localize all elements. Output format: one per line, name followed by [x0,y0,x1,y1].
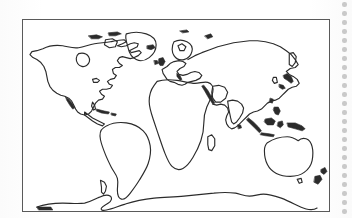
landmass-japan [283,73,293,83]
binding-hole-dot [342,92,347,97]
binding-hole-strip [341,0,350,218]
binding-hole-dot [342,173,347,178]
binding-hole-dot [342,110,347,115]
map-frame-border [22,19,330,212]
binding-hole-dot [342,128,347,133]
binding-hole-dot [342,164,347,169]
binding-hole-dot [342,65,347,70]
antarctic-peninsula [100,180,106,194]
landmass-ireland [154,61,158,65]
landmass-tasmania [297,178,302,183]
world-map-graphic [23,20,329,211]
binding-hole-dot [342,182,347,187]
binding-hole-dot [342,209,347,214]
landmass-scandinavia [172,40,192,60]
landmass-ellesmere [108,32,121,36]
binding-hole-dot [342,200,347,205]
landmass-new-zealand-north [321,167,327,174]
page-canvas: World Outline Map [0,0,352,218]
landmass-central-america [85,112,105,126]
page-title: World Outline Map [0,0,1,1]
binding-hole-dot [342,2,347,7]
landmass-arabian-peninsula [212,85,228,102]
landmass-kamchatka [289,53,296,67]
antarctica-shelf-mark [37,207,53,210]
landmass-korea [272,77,277,83]
great-lakes-outline [93,78,100,82]
landmass-taiwan [269,98,273,103]
landmass-japan-south [279,84,285,89]
binding-hole-dot [342,146,347,151]
binding-hole-dot [342,119,347,124]
landmass-cuba [97,109,110,114]
landmass-hispaniola [111,113,116,116]
landmass-sri-lanka [238,125,242,129]
landmass-british-isles [158,58,165,66]
landmass-iceland [147,45,155,50]
landmass-sulawesi [277,121,283,128]
binding-hole-dot [342,47,347,52]
landmass-baffin-island [104,39,117,48]
landmass-arctic-islands [89,35,103,39]
landmass-south-america [100,123,150,200]
landmass-sumatra [247,118,262,133]
binding-hole-dot [342,191,347,196]
landmass-new-guinea [287,123,305,131]
binding-hole-dot [342,38,347,43]
binding-hole-dot [342,101,347,106]
landmass-new-zealand-south [314,175,322,184]
landmass-africa [149,80,213,170]
binding-hole-dot [342,11,347,16]
binding-hole-dot [342,83,347,88]
binding-hole-dot [342,74,347,79]
landmass-svalbard [180,30,189,33]
binding-hole-dot [342,20,347,25]
landmass-madagascar [208,135,215,151]
binding-hole-dot [342,56,347,61]
hudson-bay-outline [76,53,89,66]
landmass-borneo [264,118,275,125]
landmass-north-america [30,40,141,115]
landmass-antarctica [37,192,317,210]
landmass-philippines [273,107,280,115]
binding-hole-dot [342,137,347,142]
landmass-java [260,133,274,137]
landmass-india [228,100,244,124]
landmass-novaya-zemlya [205,34,213,39]
binding-hole-dot [342,29,347,34]
landmass-australia [264,137,312,177]
binding-hole-dot [342,155,347,160]
